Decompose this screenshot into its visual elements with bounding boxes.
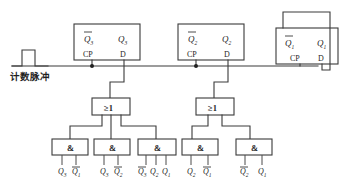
circuit-canvas: Q3 Q3 CP D Q2 Q2 CP D Q1 Q1 CP D ≥1 ≥1 &… bbox=[0, 0, 346, 188]
and-1-label: & bbox=[67, 143, 74, 153]
and-5-input-0: Q2 bbox=[240, 167, 249, 178]
or-gate-right bbox=[192, 98, 250, 139]
ff3-cp-label: CP bbox=[83, 50, 93, 59]
ff1-cp-label: CP bbox=[290, 54, 300, 63]
or-right-label: ≥1 bbox=[208, 103, 217, 113]
and-1-input-0: Q3 bbox=[58, 167, 67, 178]
and-4-input-0: Q2 bbox=[187, 167, 196, 178]
circuit-diagram: Q3 Q3 CP D Q2 Q2 CP D Q1 Q1 CP D ≥1 ≥1 &… bbox=[0, 0, 346, 188]
and-5-input-1: Q1 bbox=[258, 167, 267, 178]
and-2-input-1: Q2 bbox=[114, 167, 123, 178]
ff2-cp-label: CP bbox=[187, 50, 197, 59]
and-3-input-1: Q2 bbox=[150, 167, 159, 178]
and-4-input-1: Q1 bbox=[203, 167, 212, 178]
ff1-d-label: D bbox=[318, 54, 324, 63]
and-3-input-0: Q3 bbox=[138, 167, 147, 178]
clock-pulse-label: 计数脉冲 bbox=[10, 71, 50, 82]
and-1-input-1: Q1 bbox=[72, 167, 81, 178]
or-gate-left bbox=[70, 98, 156, 139]
and-2-label: & bbox=[109, 143, 116, 153]
and-3-input-2: Q1 bbox=[162, 167, 171, 178]
ff2-d-label: D bbox=[224, 50, 230, 59]
and-5-label: & bbox=[251, 143, 258, 153]
ff3-d-label: D bbox=[120, 50, 126, 59]
and-3-label: & bbox=[154, 143, 161, 153]
and-2-input-0: Q3 bbox=[100, 167, 109, 178]
and-4-label: & bbox=[197, 143, 204, 153]
or-left-label: ≥1 bbox=[104, 103, 113, 113]
clock-waveform-icon bbox=[12, 50, 48, 66]
